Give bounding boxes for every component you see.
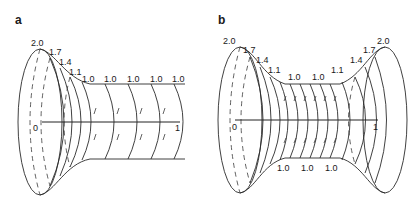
radius-label: 1.1: [331, 65, 344, 75]
radius-label: 2.0: [223, 36, 236, 46]
waist-rings: [280, 82, 350, 160]
radius-label: 1.0: [325, 163, 338, 173]
panel-b: b 0 1: [218, 13, 407, 193]
radius-label: 1.0: [127, 74, 140, 84]
radius-label: 1.1: [268, 65, 281, 75]
radius-label: 2.0: [31, 38, 44, 48]
axis-start-label: 0: [232, 122, 237, 132]
radius-label: 1.0: [172, 74, 185, 84]
radius-label: 1.0: [277, 163, 290, 173]
radius-label: 1.1: [69, 67, 82, 77]
panel-a-label: a: [15, 13, 22, 27]
radius-label: 1.7: [243, 45, 256, 55]
panel-a: a 0 1 2.0: [15, 13, 185, 195]
diagram-canvas: a 0 1 2.0: [0, 0, 415, 205]
axis-start-label: 0: [33, 123, 38, 133]
radius-label: 1.4: [350, 55, 363, 65]
radius-label: 1.0: [104, 74, 117, 84]
radius-label: 1.0: [301, 163, 314, 173]
radius-label: 1.0: [82, 74, 95, 84]
radius-label: 1.7: [363, 45, 376, 55]
axis-end-label: 1: [175, 123, 180, 133]
radius-label: 1.0: [288, 72, 301, 82]
right-flare-bottom: [340, 158, 385, 193]
axis-end-label: 1: [373, 122, 378, 132]
radius-label: 1.7: [49, 47, 62, 57]
radius-label: 1.0: [150, 74, 163, 84]
radius-label: 2.0: [377, 36, 390, 46]
radius-label: 1.0: [312, 72, 325, 82]
ring-2-0-hidden: [30, 49, 40, 195]
panel-b-label: b: [218, 13, 225, 27]
radius-label: 1.4: [59, 57, 72, 67]
cylinder-rings: [82, 82, 183, 160]
radius-label: 1.4: [256, 55, 269, 65]
